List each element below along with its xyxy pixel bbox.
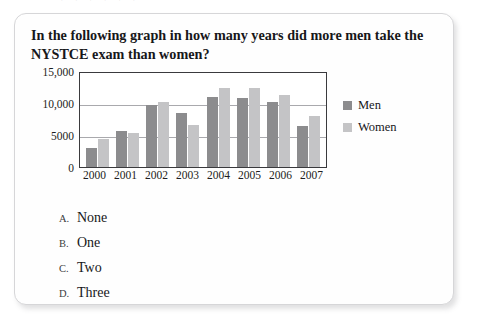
question-card: In the following graph in how many years… xyxy=(14,13,454,305)
answer-options: A.NoneB.OneC.TwoD.Three xyxy=(59,210,359,310)
x-axis-tick-label: 2006 xyxy=(269,169,292,181)
answer-option-three[interactable]: D.Three xyxy=(59,285,359,310)
option-label: One xyxy=(77,235,100,251)
bar-men-2004 xyxy=(207,97,218,167)
question-text: In the following graph in how many years… xyxy=(31,26,431,64)
y-axis: 0500010,00015,000 xyxy=(23,72,77,168)
y-axis-tick-label: 5000 xyxy=(51,130,74,142)
page-top-bleed-text: · · · · · · xyxy=(60,0,360,5)
x-axis-tick-label: 2007 xyxy=(300,169,323,181)
bar-women-2004 xyxy=(219,88,230,167)
answer-option-none[interactable]: A.None xyxy=(59,210,359,235)
legend-swatch-icon xyxy=(343,101,352,110)
option-letter: D. xyxy=(59,288,77,299)
bar-men-2001 xyxy=(116,131,127,167)
bar-group xyxy=(237,73,260,167)
bar-women-2002 xyxy=(158,102,169,167)
bar-women-2007 xyxy=(309,116,320,167)
y-axis-tick-label: 10,000 xyxy=(42,98,74,110)
bar-men-2000 xyxy=(86,148,97,167)
bar-group xyxy=(116,73,139,167)
x-axis-tick-label: 2000 xyxy=(83,169,106,181)
bar-group xyxy=(146,73,169,167)
bar-men-2006 xyxy=(267,102,278,167)
legend-item-men: Men xyxy=(343,98,429,113)
bar-group xyxy=(207,73,230,167)
option-letter: B. xyxy=(59,238,77,249)
bar-men-2007 xyxy=(297,126,308,167)
y-axis-tick-label: 15,000 xyxy=(42,66,74,78)
option-letter: C. xyxy=(59,263,77,274)
bar-men-2005 xyxy=(237,98,248,167)
bar-group xyxy=(297,73,320,167)
bar-group xyxy=(176,73,199,167)
legend-item-women: Women xyxy=(343,120,429,135)
option-label: None xyxy=(77,210,107,226)
legend-swatch-icon xyxy=(343,123,352,132)
bar-women-2005 xyxy=(249,88,260,167)
option-label: Three xyxy=(77,285,110,301)
bar-group xyxy=(86,73,109,167)
bar-groups xyxy=(80,73,326,167)
bar-group xyxy=(267,73,290,167)
bar-chart: 0500010,00015,000 2000200120022003200420… xyxy=(23,72,433,192)
bar-women-2003 xyxy=(188,125,199,167)
bar-women-2006 xyxy=(279,95,290,167)
plot-area xyxy=(79,72,327,168)
x-axis-tick-label: 2004 xyxy=(207,169,230,181)
x-axis-tick-label: 2001 xyxy=(114,169,137,181)
option-label: Two xyxy=(77,260,102,276)
bar-women-2000 xyxy=(98,139,109,167)
chart-legend: MenWomen xyxy=(343,98,429,142)
x-axis-tick-label: 2005 xyxy=(238,169,261,181)
bar-men-2002 xyxy=(146,105,157,167)
y-axis-tick-label: 0 xyxy=(68,162,74,174)
bar-women-2001 xyxy=(128,133,139,167)
option-letter: A. xyxy=(59,213,77,224)
legend-label: Women xyxy=(358,120,397,135)
legend-label: Men xyxy=(358,98,381,113)
bar-men-2003 xyxy=(176,113,187,167)
answer-option-two[interactable]: C.Two xyxy=(59,260,359,285)
x-axis-tick-label: 2002 xyxy=(145,169,168,181)
x-axis: 20002001200220032004200520062007 xyxy=(79,169,327,181)
answer-option-one[interactable]: B.One xyxy=(59,235,359,260)
x-axis-tick-label: 2003 xyxy=(176,169,199,181)
